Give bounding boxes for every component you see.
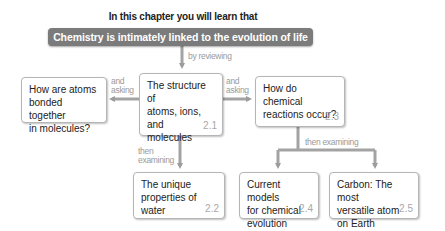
chapter-intro: In this chapter you will learn that	[0, 11, 366, 22]
node-reactions-2-3: How do chemical reactions occur? 2.3	[255, 76, 345, 127]
node-models-2-4: Current models for chemical evolution 2.…	[239, 172, 319, 219]
section-number: 2.3	[325, 110, 339, 123]
node-carbon-2-5: Carbon: The most versatile atom on Earth…	[329, 172, 419, 219]
section-number: 2.5	[399, 202, 413, 215]
section-number: 2.4	[299, 202, 313, 215]
node-bonding-question: How are atoms bonded together in molecul…	[21, 77, 107, 123]
label-then-examining-right: then examining	[305, 138, 358, 147]
chapter-theme-banner: Chemistry is intimately linked to the ev…	[48, 28, 313, 46]
concept-map: In this chapter you will learn that Chem…	[0, 0, 445, 231]
node-water-2-2: The unique properties of water 2.2	[133, 172, 225, 219]
label-then-examining-left: then examining	[138, 147, 174, 165]
node-structure-2-1: The structure of atoms, ions, and molecu…	[139, 73, 223, 136]
label-and-asking-left: and asking	[111, 77, 134, 95]
label-and-asking-right: and asking	[226, 77, 249, 95]
section-number: 2.2	[205, 202, 219, 215]
section-number: 2.1	[203, 119, 217, 132]
label-by-reviewing: by reviewing	[188, 52, 232, 61]
